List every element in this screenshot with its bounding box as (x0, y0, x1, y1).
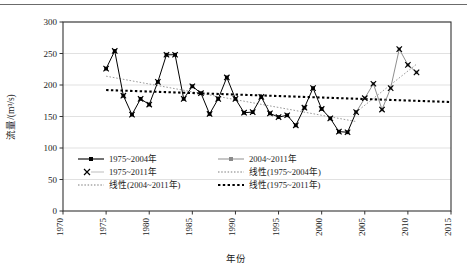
trendlines-layer (106, 64, 451, 121)
legend-label: 1975~2011年 (109, 166, 157, 177)
x-axis-tick-labels: 1970197519801985199019952000200520102015 (55, 218, 453, 237)
y-tick-label-150: 150 (44, 112, 58, 122)
x-tick-label-2000: 2000 (314, 218, 324, 237)
x-tick-label-2010: 2010 (400, 218, 410, 237)
data-point-cross-marker (405, 62, 410, 67)
x-tick-label-1975: 1975 (98, 218, 108, 237)
x-tick-label-1970: 1970 (55, 218, 65, 237)
x-tick-label-1985: 1985 (184, 218, 194, 237)
y-tick-label-250: 250 (44, 49, 58, 59)
y-tick-label-50: 50 (48, 175, 58, 185)
legend-entry: 1975~2011年 (84, 166, 157, 177)
legend-entry: 线性(1975~2011年) (218, 179, 321, 190)
legend-entry: 线性(2004~2011年) (78, 179, 181, 190)
trendline-2 (356, 64, 416, 112)
y-tick-label-100: 100 (44, 143, 58, 153)
y-axis-title: 流量/(m³/s) (5, 94, 17, 140)
legend-square-marker-icon (229, 157, 233, 161)
data-point-cross-marker (414, 70, 419, 75)
legend-cross-marker-icon (84, 169, 90, 175)
legend-label: 线性(1975~2011年) (249, 179, 321, 190)
legend-label: 1975~2004年 (109, 153, 157, 164)
y-axis-tick-labels: 050100150200250300 (44, 17, 58, 216)
x-axis-title: 年份 (226, 253, 246, 264)
top-divider-rule (0, 4, 467, 5)
series-line-1975-2004 (106, 51, 356, 132)
legend-entry: 1975~2004年 (78, 153, 157, 164)
legend-label: 线性(2004~2011年) (109, 179, 181, 190)
legend-entry: 2004~2011年 (218, 153, 297, 164)
y-tick-label-200: 200 (44, 80, 58, 90)
trendline-1 (106, 76, 356, 121)
y-tick-label-300: 300 (44, 17, 58, 27)
series-line-2004-2011 (356, 49, 416, 112)
y-tick-label-0: 0 (53, 206, 58, 216)
legend-label: 2004~2011年 (249, 153, 297, 164)
x-tick-label-1995: 1995 (271, 218, 281, 237)
trendline-3 (106, 90, 451, 102)
flow-discharge-line-chart: 1970197519801985199019952000200520102015… (0, 0, 467, 273)
figure-container: 1970197519801985199019952000200520102015… (0, 0, 467, 273)
x-tick-label-1980: 1980 (141, 218, 151, 237)
data-point-cross-marker (371, 81, 376, 86)
x-tick-label-2015: 2015 (443, 218, 453, 237)
chart-legend: 1975~2004年2004~2011年1975~2011年线性(1975~20… (78, 153, 321, 190)
legend-entry: 线性(1975~2004年) (218, 166, 321, 177)
legend-label: 线性(1975~2004年) (249, 166, 321, 177)
x-tick-label-1990: 1990 (227, 218, 237, 237)
legend-square-marker-icon (89, 157, 93, 161)
data-point-cross-marker (379, 107, 384, 112)
x-tick-label-2005: 2005 (357, 218, 367, 237)
